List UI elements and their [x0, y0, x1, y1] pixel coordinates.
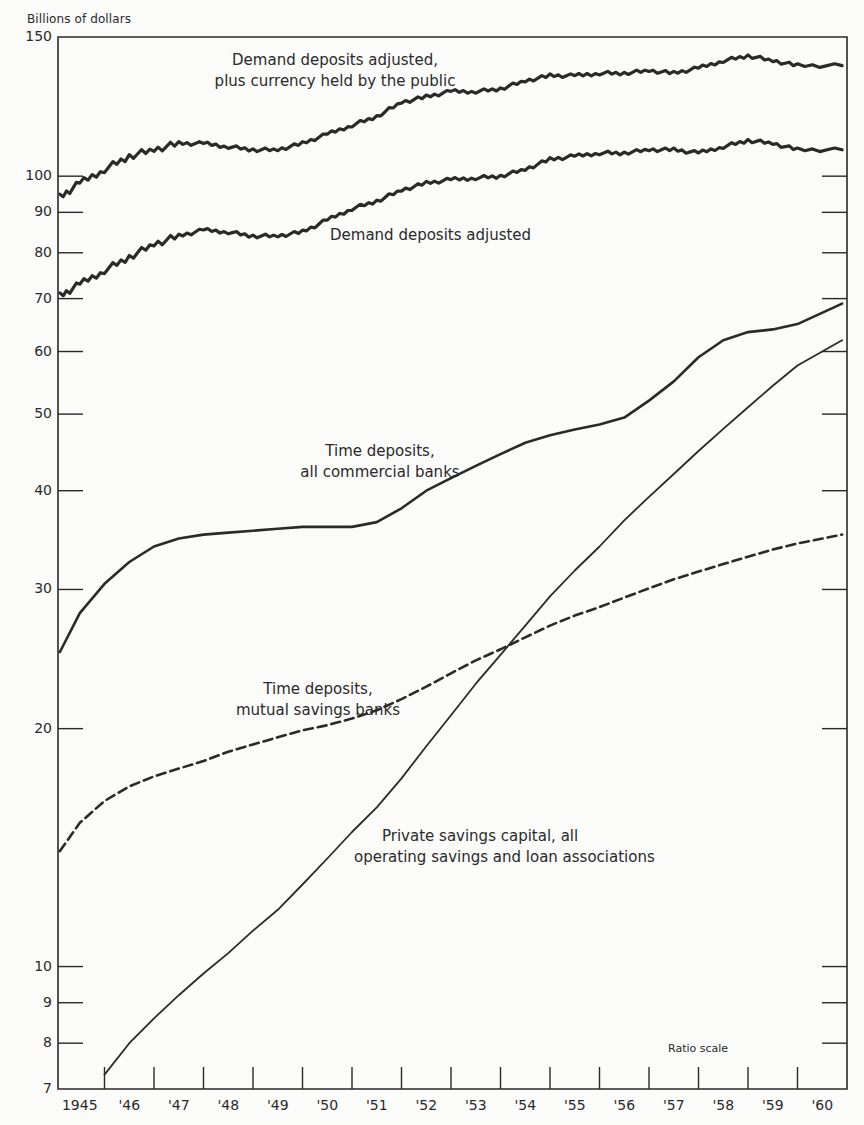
y-tick-label: 7 — [12, 1081, 52, 1095]
x-tick-label: '59 — [751, 1097, 795, 1113]
series-line — [60, 140, 842, 296]
annotation-line: plus currency held by the public — [185, 71, 485, 92]
y-tick-label: 100 — [12, 168, 52, 182]
annotation-line: mutual savings banks — [228, 700, 408, 721]
y-tick-label: 30 — [12, 581, 52, 595]
x-tick-label: 1945 — [58, 1097, 102, 1113]
y-tick-label: 10 — [12, 959, 52, 973]
x-tick-label: '56 — [602, 1097, 646, 1113]
x-tick-label: '48 — [206, 1097, 250, 1113]
y-tick-label: 90 — [12, 204, 52, 218]
x-tick-label: '54 — [503, 1097, 547, 1113]
y-tick-label: 50 — [12, 406, 52, 420]
x-tick-label: '58 — [701, 1097, 745, 1113]
x-tick-label: '57 — [652, 1097, 696, 1113]
ratio-scale-note: Ratio scale — [668, 1042, 728, 1055]
y-tick-label: 150 — [12, 29, 52, 43]
annotation-line: Private savings capital, all — [354, 826, 655, 847]
series-lines — [60, 55, 842, 1075]
annotation-time-deposits-commercial: Time deposits, all commercial banks — [280, 441, 480, 483]
y-tick-label: 20 — [12, 721, 52, 735]
annotation-savings-loan: Private savings capital, all operating s… — [354, 826, 655, 868]
annotation-line: Time deposits, — [280, 441, 480, 462]
y-tick-label: 40 — [12, 483, 52, 497]
annotation-line: Demand deposits adjusted, — [185, 50, 485, 71]
x-tick-label: '51 — [355, 1097, 399, 1113]
x-tick-label: '55 — [553, 1097, 597, 1113]
y-axis-ticks — [58, 176, 847, 1043]
x-tick-label: '53 — [454, 1097, 498, 1113]
y-tick-label: 70 — [12, 291, 52, 305]
series-line — [60, 535, 842, 852]
y-tick-label: 9 — [12, 995, 52, 1009]
annotation-line: all commercial banks — [280, 462, 480, 483]
chart-canvas — [0, 0, 864, 1125]
x-tick-label: '49 — [256, 1097, 300, 1113]
x-tick-label: '50 — [305, 1097, 349, 1113]
x-tick-label: '47 — [157, 1097, 201, 1113]
annotation-line: operating savings and loan associations — [354, 847, 655, 868]
x-tick-label: '46 — [107, 1097, 151, 1113]
x-tick-label: '60 — [800, 1097, 844, 1113]
x-axis-ticks — [105, 1067, 798, 1089]
annotation-demand-plus-currency: Demand deposits adjusted, plus currency … — [185, 50, 485, 92]
annotation-demand-deposits: Demand deposits adjusted — [330, 225, 531, 246]
y-axis-title: Billions of dollars — [27, 12, 131, 26]
annotation-line: Time deposits, — [228, 679, 408, 700]
y-tick-label: 80 — [12, 245, 52, 259]
x-tick-label: '52 — [404, 1097, 448, 1113]
annotation-time-deposits-mutual: Time deposits, mutual savings banks — [228, 679, 408, 721]
y-tick-label: 8 — [12, 1035, 52, 1049]
y-tick-label: 60 — [12, 344, 52, 358]
